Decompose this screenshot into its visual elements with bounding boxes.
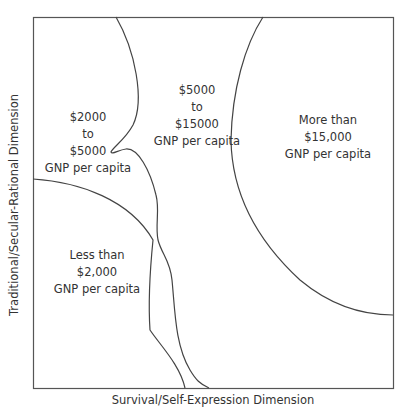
- boundary-lower-middle: [111, 17, 209, 388]
- label-line: $5000: [45, 143, 131, 160]
- label-line: $2,000: [54, 264, 140, 281]
- label-line: to: [45, 126, 131, 143]
- label-line: Less than: [54, 247, 140, 264]
- plot-frame: [34, 18, 394, 389]
- x-axis-label: Survival/Self-Expression Dimension: [112, 393, 315, 407]
- region-label-low: Less than $2,000 GNP per capita: [54, 247, 140, 298]
- label-line: GNP per capita: [45, 160, 131, 177]
- region-label-lower-middle: $2000 to $5000 GNP per capita: [45, 109, 131, 177]
- label-line: $5000: [154, 82, 240, 99]
- region-label-upper-middle: $5000 to $15000 GNP per capita: [154, 82, 240, 150]
- label-line: More than: [285, 112, 371, 129]
- boundary-high-income: [231, 17, 393, 315]
- label-line: GNP per capita: [285, 146, 371, 163]
- label-line: $15000: [154, 116, 240, 133]
- y-axis-label: Traditional/Secular-Rational Dimension: [7, 94, 21, 316]
- region-label-high: More than $15,000 GNP per capita: [285, 112, 371, 163]
- label-line: $2000: [45, 109, 131, 126]
- label-line: $15,000: [285, 129, 371, 146]
- diagram-canvas: [0, 0, 410, 414]
- label-line: GNP per capita: [54, 281, 140, 298]
- label-line: GNP per capita: [154, 133, 240, 150]
- label-line: to: [154, 99, 240, 116]
